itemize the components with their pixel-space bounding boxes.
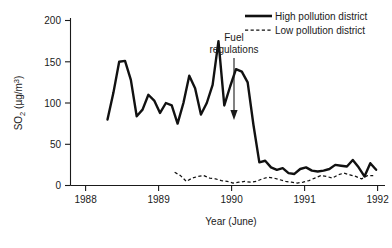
y-tick-label-100: 100 — [44, 98, 61, 109]
annotation-text-line2: regulations — [210, 44, 259, 55]
y-axis-tick-labels: 200 150 100 50 0 — [44, 15, 61, 191]
y-tick-label-0: 0 — [55, 180, 61, 191]
y-tick-label-50: 50 — [50, 139, 62, 150]
series-line-high-pollution-district — [108, 41, 377, 176]
x-axis-tick-labels: 1988 1989 1990 1991 1992 — [74, 194, 389, 205]
chart-legend: High pollution district Low pollution di… — [245, 11, 367, 36]
annotation-text-line1: Fuel — [224, 32, 243, 43]
legend-item-high-pollution-district: High pollution district — [245, 11, 367, 22]
x-tick-label-1990: 1990 — [220, 194, 243, 205]
legend-label-low: Low pollution district — [275, 25, 365, 36]
x-tick-label-1991: 1991 — [293, 194, 316, 205]
so2-time-series-chart: 200 150 100 50 0 1988 1989 1990 1991 199… — [0, 0, 392, 248]
y-axis-title-units: (µg/m — [13, 83, 24, 112]
legend-item-low-pollution-district: Low pollution district — [245, 25, 365, 36]
y-tick-label-150: 150 — [44, 57, 61, 68]
svg-text:SO2 (µg/m3): SO2 (µg/m3) — [12, 76, 27, 131]
x-tick-label-1989: 1989 — [147, 194, 170, 205]
legend-label-high: High pollution district — [275, 11, 367, 22]
chart-canvas: 200 150 100 50 0 1988 1989 1990 1991 199… — [0, 0, 392, 248]
x-axis-title: Year (June) — [205, 216, 256, 227]
y-axis-ticks — [65, 21, 71, 186]
x-tick-label-1992: 1992 — [366, 194, 389, 205]
y-axis-title: SO2 (µg/m3) — [12, 76, 27, 131]
series-line-low-pollution-district — [175, 172, 374, 183]
y-tick-label-200: 200 — [44, 15, 61, 26]
y-axis-title-close: ) — [13, 76, 24, 79]
y-axis-title-base: SO — [13, 116, 24, 131]
x-tick-label-1988: 1988 — [74, 194, 97, 205]
x-axis-ticks — [86, 186, 378, 192]
annotation-arrow-head-icon — [230, 110, 237, 120]
